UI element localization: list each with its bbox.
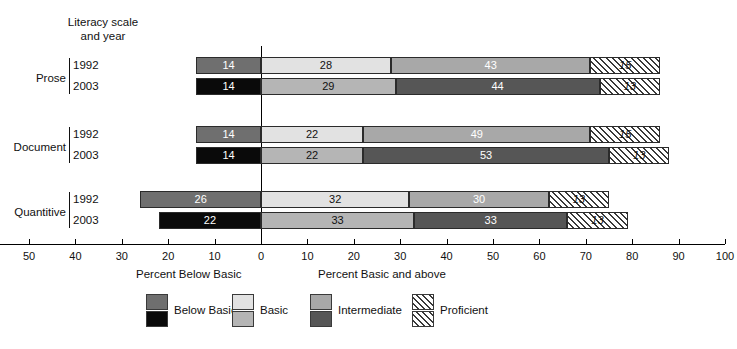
x-axis-tick	[122, 239, 123, 244]
bar-segment-below-basic: 14	[196, 126, 261, 143]
bar-segment-value: 28	[320, 60, 332, 71]
x-axis-tick-label: 20	[342, 250, 366, 262]
bar-segment-value: 14	[222, 129, 234, 140]
bar-segment-value: 26	[195, 194, 207, 205]
x-axis-tick	[539, 239, 540, 244]
legend-swatch-2003	[232, 311, 254, 327]
bar-row: 14224915	[0, 126, 514, 143]
x-axis-tick	[29, 239, 30, 244]
x-axis-tick-label: 20	[156, 250, 180, 262]
bar-segment-proficient: 15	[590, 57, 660, 74]
bar-segment-basic: 33	[261, 212, 414, 229]
legend-swatch-stack	[146, 294, 168, 328]
x-axis-tick	[632, 239, 633, 244]
bar-segment-below-basic: 22	[159, 212, 261, 229]
bar-segment-value: 30	[473, 194, 485, 205]
axis-caption-right: Percent Basic and above	[318, 268, 446, 280]
legend-swatch-2003	[146, 311, 168, 327]
legend-swatch-1992	[146, 294, 168, 310]
bar-segment-basic: 28	[261, 57, 391, 74]
x-axis-tick-label: 90	[667, 250, 691, 262]
bar-segment-basic: 32	[261, 191, 409, 208]
bar-segment-basic: 29	[261, 78, 396, 95]
legend-swatch-stack	[412, 294, 434, 328]
x-axis-tick-label: 50	[17, 250, 41, 262]
bar-segment-basic: 22	[261, 126, 363, 143]
bar-segment-intermediate: 53	[363, 147, 609, 164]
bar-row: 14294413	[0, 78, 514, 95]
legend-swatch-1992	[232, 294, 254, 310]
bar-segment-value: 53	[480, 150, 492, 161]
legend-swatch-1992	[412, 294, 434, 310]
bar-segment-intermediate: 49	[363, 126, 590, 143]
legend-label: Intermediate	[338, 304, 402, 316]
legend-label: Basic	[260, 304, 288, 316]
axis-caption-left: Percent Below Basic	[136, 268, 241, 280]
bar-segment-intermediate: 43	[391, 57, 591, 74]
bar-segment-value: 29	[322, 81, 334, 92]
bar-segment-value: 13	[624, 81, 636, 92]
bar-segment-value: 33	[485, 215, 497, 226]
legend-swatch-stack	[232, 294, 254, 328]
bar-segment-proficient: 13	[549, 191, 609, 208]
x-axis-tick	[354, 239, 355, 244]
bar-row: 26323013	[0, 191, 514, 208]
legend-swatch-1992	[310, 294, 332, 310]
bar-segment-value: 44	[492, 81, 504, 92]
bar-row: 22333313	[0, 212, 514, 229]
x-axis-tick	[168, 239, 169, 244]
x-axis-tick-label: 40	[63, 250, 87, 262]
bar-segment-value: 22	[306, 129, 318, 140]
bar-row: 14284315	[0, 57, 514, 74]
x-axis-tick-label: 50	[481, 250, 505, 262]
bar-segment-intermediate: 30	[409, 191, 548, 208]
legend-label: Below Basic	[174, 304, 237, 316]
bar-segment-value: 14	[222, 60, 234, 71]
bar-segment-value: 22	[204, 215, 216, 226]
bar-segment-value: 49	[471, 129, 483, 140]
x-axis-tick	[215, 239, 216, 244]
x-axis-tick-label: 40	[435, 250, 459, 262]
x-axis-tick-label: 10	[203, 250, 227, 262]
x-axis-tick-label: 30	[110, 250, 134, 262]
legend-label: Proficient	[440, 304, 488, 316]
x-axis-tick	[307, 239, 308, 244]
bar-segment-value: 33	[331, 215, 343, 226]
x-axis-tick-label: 70	[574, 250, 598, 262]
x-axis-tick	[447, 239, 448, 244]
x-axis-tick-label: 0	[249, 250, 273, 262]
bar-segment-value: 14	[222, 81, 234, 92]
bar-segment-value: 14	[222, 150, 234, 161]
bar-segment-value: 13	[591, 215, 603, 226]
bar-row: 14225313	[0, 147, 514, 164]
x-axis-tick	[400, 239, 401, 244]
bar-segment-value: 43	[485, 60, 497, 71]
chart-legend: Below BasicBasicIntermediateProficient	[0, 292, 514, 337]
bar-segment-value: 13	[633, 150, 645, 161]
x-axis-tick	[725, 239, 726, 244]
bar-segment-basic: 22	[261, 147, 363, 164]
x-axis-line	[0, 244, 725, 245]
legend-swatch-2003	[412, 311, 434, 327]
bar-segment-below-basic: 14	[196, 78, 261, 95]
x-axis-tick-label: 10	[295, 250, 319, 262]
bar-segment-intermediate: 33	[414, 212, 567, 229]
bar-segment-proficient: 13	[567, 212, 627, 229]
x-axis-tick-label: 100	[713, 250, 737, 262]
bar-segment-value: 13	[573, 194, 585, 205]
bar-segment-value: 15	[619, 60, 631, 71]
x-axis-tick	[679, 239, 680, 244]
legend-swatch-2003	[310, 311, 332, 327]
bar-segment-proficient: 13	[609, 147, 669, 164]
x-axis-tick-label: 60	[527, 250, 551, 262]
legend-swatch-stack	[310, 294, 332, 328]
bar-segment-below-basic: 14	[196, 57, 261, 74]
bar-segment-below-basic: 14	[196, 147, 261, 164]
x-axis-tick-label: 30	[388, 250, 412, 262]
x-axis-tick	[75, 239, 76, 244]
x-axis-tick	[493, 239, 494, 244]
bar-segment-value: 32	[329, 194, 341, 205]
bar-segment-intermediate: 44	[396, 78, 600, 95]
bar-segment-value: 15	[619, 129, 631, 140]
